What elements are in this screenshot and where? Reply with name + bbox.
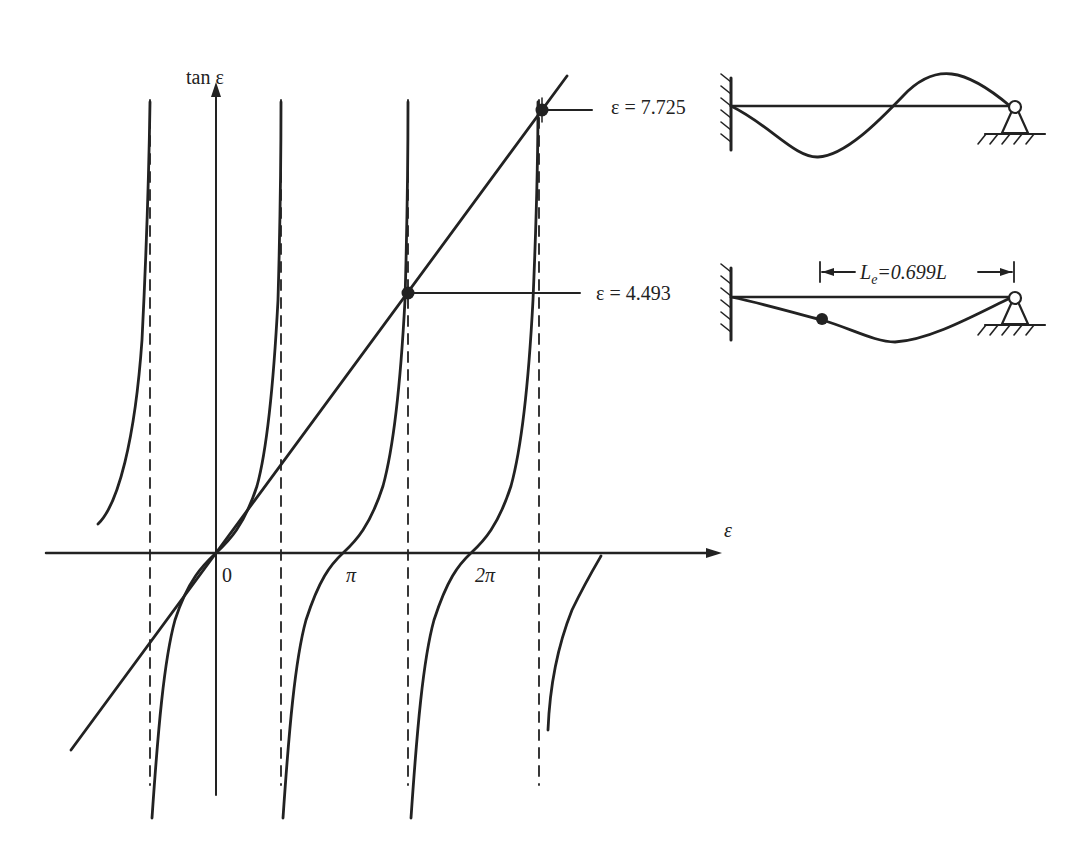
y-axis-label-text: tan ε — [186, 66, 224, 88]
pin-joint-icon — [1009, 292, 1021, 304]
y-axis — [211, 82, 221, 795]
tan-branch-pi — [283, 102, 408, 818]
arrow-right-icon — [1000, 268, 1012, 276]
pin-support-icon — [1002, 304, 1028, 324]
effective-length-value: =0.699L — [877, 261, 947, 283]
tick-label-2pi: 2π — [475, 565, 495, 585]
tan-branch-left — [98, 102, 150, 524]
line-y-equals-epsilon — [71, 76, 567, 750]
effective-length-label: Le=0.699L — [860, 262, 947, 287]
asymptotes — [150, 100, 539, 785]
mode-shape-second — [721, 74, 1045, 157]
deflected-shape — [731, 74, 1010, 157]
effective-length-symbol: L — [860, 261, 871, 283]
root-label-7725: ε = 7.725 — [611, 97, 686, 117]
tan-branch-2pi — [411, 102, 538, 818]
arrow-left-icon — [822, 268, 834, 276]
inflection-point-icon — [816, 313, 828, 325]
origin-label: 0 — [222, 565, 232, 585]
root-label-4493: ε = 4.493 — [596, 283, 671, 303]
root-7725 — [536, 98, 593, 122]
tan-branch-right — [548, 556, 601, 730]
pin-support-icon — [1002, 113, 1028, 133]
y-axis-label: tan ε — [186, 67, 224, 87]
tan-epsilon-diagram — [0, 0, 1090, 860]
x-axis — [46, 548, 722, 558]
pin-joint-icon — [1009, 101, 1021, 113]
x-axis-arrow-icon — [706, 548, 722, 558]
tan-curves — [98, 102, 601, 818]
ground-hatching-icon — [978, 134, 1034, 144]
tick-label-pi: π — [346, 565, 356, 585]
root-4493 — [402, 287, 581, 300]
ground-hatching-icon — [978, 325, 1034, 335]
deflected-shape — [731, 297, 1010, 342]
x-axis-label: ε — [724, 520, 732, 540]
